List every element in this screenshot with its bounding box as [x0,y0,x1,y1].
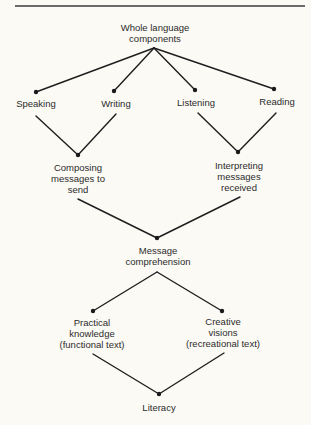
node-dot-speaking [34,90,38,94]
node-label-line: Whole language [121,22,190,33]
node-label-line: visions [186,327,260,338]
node-label-line: Speaking [16,98,56,109]
node-writing: Writing [101,98,130,109]
node-message-comprehension: Message comprehension [126,245,191,267]
node-label-line: components [121,33,190,44]
edge-reading-interpreting [238,113,276,152]
node-dot-listening [193,88,197,92]
node-reading: Reading [259,96,294,107]
node-dot-writing [112,89,116,93]
edge-practical-literacy [93,354,159,394]
edge-speaking-composing [36,116,78,155]
node-creative-visions: Creative visions (recreational text) [186,316,260,349]
node-listening: Listening [177,97,215,108]
node-label-line: Message [126,245,191,256]
node-dot-composing [76,153,80,157]
node-label-line: Listening [177,97,215,108]
edge-comprehension-practical [93,272,157,311]
node-label-line: Literacy [142,402,175,413]
edge-creative-literacy [159,353,224,394]
node-label-line: (recreational text) [186,338,260,349]
node-literacy: Literacy [142,402,175,413]
node-dot-creative [220,309,224,313]
node-label-line: Writing [101,98,130,109]
node-label-line: Reading [259,96,294,107]
node-label-line: messages [215,171,263,182]
node-label-line: send [51,184,105,195]
node-label-line: comprehension [126,256,191,267]
node-label-line: Interpreting [215,160,263,171]
node-dot-interpreting [236,150,240,154]
edge-interpreting-comprehension [157,197,240,238]
edge-listening-interpreting [198,113,238,152]
edge-root-writing [114,48,154,91]
edge-root-reading [154,48,274,89]
node-label-line: Creative [186,316,260,327]
node-dot-practical [91,309,95,313]
node-label-line: knowledge [60,328,125,339]
edge-writing-composing [78,114,116,155]
whole-language-flow-diagram [0,0,311,425]
node-label-line: Composing [51,162,105,173]
edge-root-speaking [36,48,154,92]
node-dot-literacy [157,392,161,396]
node-dot-reading [272,87,276,91]
node-practical-knowledge: Practical knowledge (functional text) [60,317,125,350]
node-label-line: Practical [60,317,125,328]
node-speaking: Speaking [16,98,56,109]
node-composing-messages: Composing messages to send [51,162,105,195]
node-label-line: (functional text) [60,339,125,350]
node-dot-comprehension [155,236,159,240]
node-label-line: messages to [51,173,105,184]
node-interpreting-messages: Interpreting messages received [215,160,263,193]
edge-comprehension-creative [157,272,222,311]
edge-composing-comprehension [78,199,157,238]
node-label-line: received [215,182,263,193]
node-whole-language-components: Whole language components [121,22,190,44]
